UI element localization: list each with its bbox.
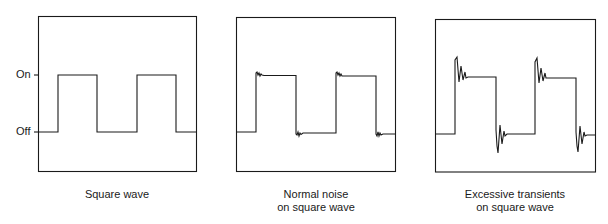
- caption-line: on square wave: [430, 201, 600, 214]
- caption-line: Normal noise: [236, 188, 396, 201]
- panel-1-frame: [39, 17, 197, 172]
- panel-3-caption: Excessive transients on square wave: [430, 188, 600, 214]
- caption-line: Excessive transients: [430, 188, 600, 201]
- panel-1-caption: Square wave: [38, 188, 196, 201]
- transient-wave-trace: [436, 57, 596, 153]
- panel-2-caption: Normal noise on square wave: [236, 188, 396, 214]
- caption-line: on square wave: [236, 201, 396, 214]
- square-wave-trace: [39, 75, 197, 132]
- panel-2-frame: [237, 18, 396, 172]
- caption-line: Square wave: [38, 188, 196, 201]
- panel-3-frame: [436, 20, 596, 173]
- noisy-wave-trace: [237, 72, 396, 136]
